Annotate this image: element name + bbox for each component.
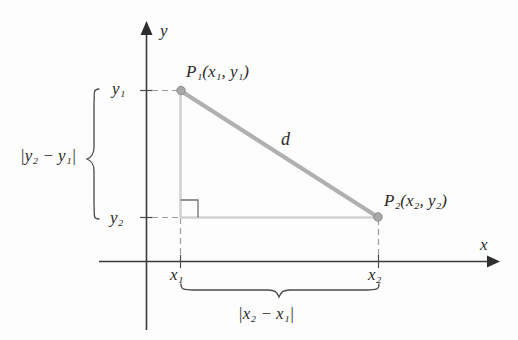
diagram-canvas (0, 0, 518, 340)
x-axis-label: x (480, 236, 488, 253)
tick-marks-group (140, 91, 379, 269)
distance-formula-figure: y x P₁(x₁, y₁) P₂(x₂, y₂) d y₁ y₂ x₁ x₂ … (0, 0, 518, 340)
y-axis-arrowhead (141, 21, 153, 35)
point-p2-label: P₂(x₂, y₂) (384, 192, 447, 209)
point-p2-dot (374, 213, 382, 221)
y-axis-label: y (160, 22, 168, 39)
point-p1-dot (177, 86, 185, 94)
distance-segment-label: d (281, 130, 290, 148)
x-axis-arrowhead (487, 256, 500, 268)
right-angle-marker (181, 200, 199, 218)
delta-x-brace-label: |x₂ − x₁| (238, 305, 294, 322)
axes-group (99, 21, 500, 330)
point-p1-label: P₁(x₁, y₁) (186, 63, 249, 80)
hypotenuse-segment (181, 91, 377, 217)
x1-tick-label: x₁ (170, 266, 183, 283)
y2-tick-label: y₂ (110, 209, 123, 226)
y1-tick-label: y₁ (112, 80, 125, 97)
x2-tick-label: x₂ (368, 266, 381, 283)
dashed-guides-group (152, 91, 379, 259)
horizontal-brace (181, 284, 379, 297)
vertical-brace (87, 89, 99, 219)
delta-y-brace-label: |y₂ − y₁| (20, 147, 76, 164)
